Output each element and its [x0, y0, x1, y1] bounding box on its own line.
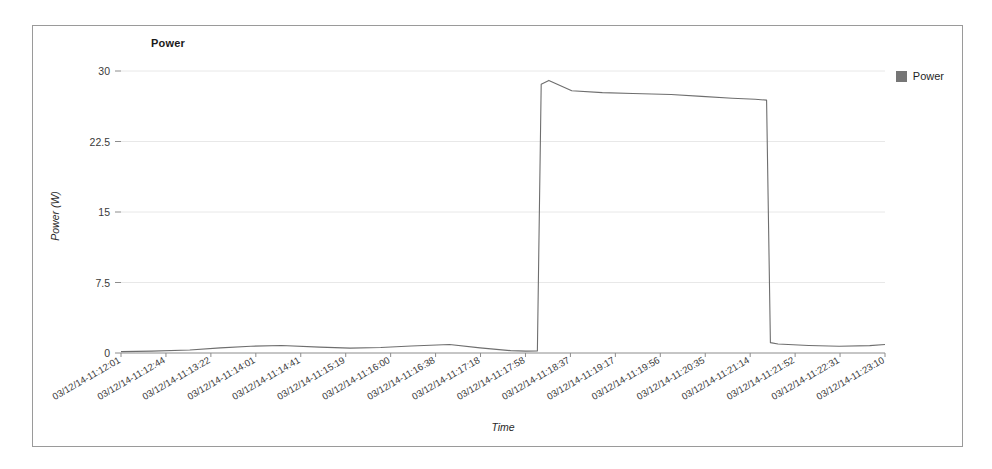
gridlines	[121, 71, 885, 283]
y-axis-ticks: 07.51522.530	[90, 65, 121, 359]
chart-frame: Power Power 07.51522.530 03/12/14-11:12:…	[32, 25, 963, 447]
y-tick-label: 30	[98, 65, 110, 77]
y-axis-title: Power (W)	[49, 191, 61, 241]
y-tick-label: 15	[98, 206, 110, 218]
series-line-power	[121, 80, 885, 351]
chart-plot-area: 07.51522.530 03/12/14-11:12:0103/12/14-1…	[33, 26, 962, 446]
y-tick-label: 7.5	[95, 277, 110, 289]
y-tick-label: 0	[104, 347, 110, 359]
y-tick-label: 22.5	[90, 136, 111, 148]
x-axis-ticks: 03/12/14-11:12:0103/12/14-11:12:4403/12/…	[50, 353, 886, 402]
x-axis-title: Time	[491, 421, 514, 433]
